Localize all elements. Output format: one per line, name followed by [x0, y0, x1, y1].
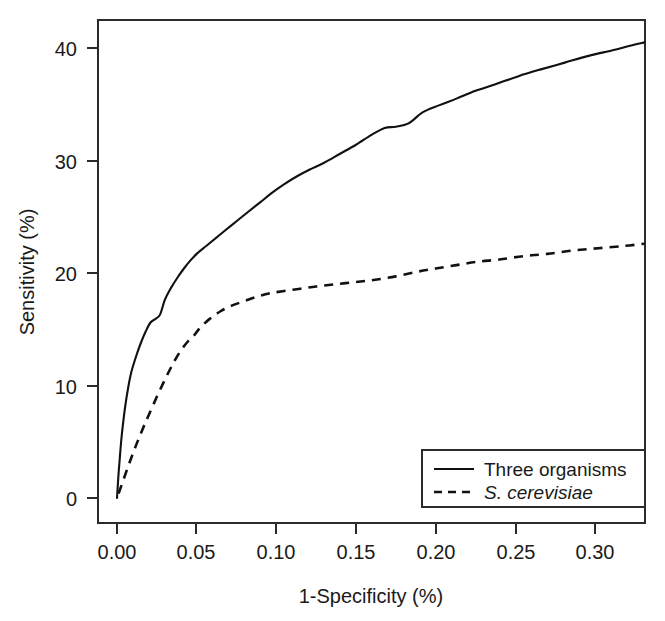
y-tick-label: 20: [55, 263, 77, 285]
y-tick-label: 40: [55, 38, 77, 60]
y-axis-ticks: [87, 48, 98, 498]
x-tick-label: 0.30: [576, 541, 615, 563]
chart-canvas: 0.00 0.05 0.10 0.15 0.20 0.25 0.30 0 10 …: [0, 0, 665, 621]
y-axis-tick-labels: 0 10 20 30 40: [55, 38, 77, 510]
x-axis-ticks: [117, 523, 595, 534]
x-tick-label: 0.00: [98, 541, 137, 563]
y-axis-title: Sensitivity (%): [16, 209, 38, 336]
series-line-three-organisms: [117, 42, 644, 498]
plot-frame: [98, 20, 645, 523]
y-tick-label: 30: [55, 151, 77, 173]
y-tick-label: 0: [66, 488, 77, 510]
x-axis-tick-labels: 0.00 0.05 0.10 0.15 0.20 0.25 0.30: [98, 541, 615, 563]
x-tick-label: 0.05: [177, 541, 216, 563]
x-tick-label: 0.15: [337, 541, 376, 563]
x-tick-label: 0.25: [497, 541, 536, 563]
legend: Three organisms S. cerevisiae: [422, 450, 645, 507]
y-tick-label: 10: [55, 376, 77, 398]
x-tick-label: 0.10: [257, 541, 296, 563]
x-tick-label: 0.20: [417, 541, 456, 563]
roc-chart-figure: 0.00 0.05 0.10 0.15 0.20 0.25 0.30 0 10 …: [0, 0, 665, 621]
legend-label-s-cerevisiae: S. cerevisiae: [484, 482, 593, 503]
x-axis-title: 1-Specificity (%): [299, 585, 443, 607]
legend-label-three-organisms: Three organisms: [484, 459, 627, 480]
